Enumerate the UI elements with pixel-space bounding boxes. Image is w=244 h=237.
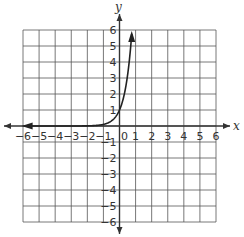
curve-arrow-top [128,31,135,42]
x-tick-label: −2 [79,130,95,143]
y-axis-label: y [114,0,122,14]
y-tick-label: −2 [100,152,116,165]
y-tick-label: 5 [110,40,117,53]
coordinate-plane: −6−5−4−3−2−10123456654321−1−2−3−4−5−6 x … [0,0,244,237]
x-tick-label: 2 [148,130,155,143]
x-axis-arrow-right [223,123,230,129]
y-tick-label: 1 [110,104,117,117]
x-tick-label: 0 [121,130,128,143]
y-tick-label: 6 [110,24,117,37]
y-tick-label: −5 [100,200,116,213]
x-tick-label: 3 [164,130,171,143]
y-tick-label: −4 [100,184,116,197]
y-axis-arrow-up [117,14,123,21]
y-tick-label: 2 [110,88,117,101]
x-tick-label: −3 [63,130,79,143]
axes [4,14,230,234]
y-tick-label: −1 [100,136,116,149]
x-axis-arrow-left [4,123,11,129]
y-tick-label: 3 [110,72,117,85]
x-tick-label: −6 [15,130,31,143]
y-tick-label: −6 [100,216,116,229]
y-axis-arrow-down [117,227,123,234]
x-tick-label: 4 [180,130,187,143]
x-tick-label: −4 [47,130,63,143]
x-tick-label: 6 [213,130,220,143]
y-tick-label: 4 [110,56,117,69]
y-tick-label: −3 [100,168,116,181]
x-tick-label: −5 [31,130,47,143]
x-tick-label: 5 [196,130,203,143]
x-tick-label: 1 [132,130,139,143]
x-axis-label: x [233,119,240,133]
